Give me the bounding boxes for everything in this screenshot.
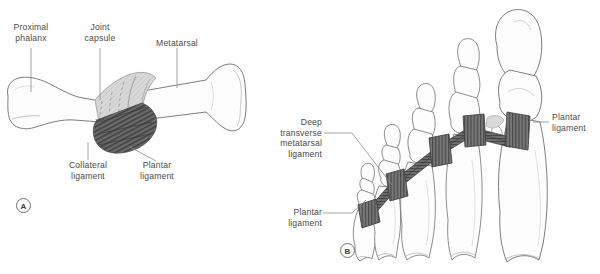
plantar-ligament-block-1 xyxy=(505,112,530,150)
label-collateral-ligament: Collateral ligament xyxy=(60,160,116,181)
label-plantar-ligament-a: Plantar ligament xyxy=(130,160,184,181)
panel-tag-a: A xyxy=(16,198,31,213)
proximal-phalanx-bone xyxy=(7,77,100,129)
plantar-ligament-block-3 xyxy=(429,134,452,167)
label-plantar-ligament-b-right: Plantar ligament xyxy=(552,112,600,133)
panel-tag-b: B xyxy=(340,243,355,258)
label-deep-transverse-metatarsal-ligament: Deep transverse metatarsal ligament xyxy=(264,117,322,159)
panel-a-artwork xyxy=(7,48,246,161)
toe-2-bones xyxy=(446,39,482,260)
plantar-ligament-block-2 xyxy=(463,114,486,147)
label-metatarsal: Metatarsal xyxy=(148,38,206,49)
leader-plantar-ligament-a xyxy=(130,147,156,161)
anatomical-figure: Proximal phalanx Joint capsule Metatarsa… xyxy=(0,0,600,274)
label-joint-capsule: Joint capsule xyxy=(72,22,128,43)
panel-b-artwork xyxy=(323,10,549,262)
label-proximal-phalanx: Proximal phalanx xyxy=(2,22,60,43)
plantar-ligament-block-4 xyxy=(386,169,408,201)
label-plantar-ligament-b-left: Plantar ligament xyxy=(266,207,322,228)
